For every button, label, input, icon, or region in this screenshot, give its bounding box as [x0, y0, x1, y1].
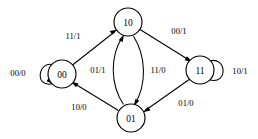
state-node-11-label: 11 [195, 66, 204, 76]
transition-10-to-01 [134, 36, 144, 106]
state-node-01-label: 01 [126, 114, 136, 124]
transition-10-to-01-path [134, 36, 144, 104]
state-node-11[interactable]: 11 [186, 56, 214, 84]
state-diagram-canvas: 10 00 11 01 00/0 11/1 00/1 10/1 01/0 10/… [0, 0, 258, 139]
transition-label-10-to-01: 11/0 [151, 65, 166, 75]
transition-01-to-10-path [113, 37, 123, 105]
state-node-10[interactable]: 10 [114, 8, 142, 36]
state-diagram-svg: 10 00 11 01 00/0 11/1 00/1 10/1 01/0 10/… [0, 0, 258, 139]
transition-label-01-to-00: 10/0 [71, 102, 86, 112]
transition-label-00-to-00: 00/0 [10, 68, 25, 78]
state-node-00[interactable]: 00 [48, 60, 76, 88]
transition-label-11-to-11: 10/1 [232, 66, 247, 76]
transition-label-11-to-01: 01/0 [178, 98, 193, 108]
transition-label-10-to-11: 00/1 [171, 26, 186, 36]
state-node-10-label: 10 [123, 18, 133, 28]
transition-label-01-to-10: 01/1 [90, 65, 105, 75]
transition-label-00-to-10: 11/1 [66, 31, 81, 41]
state-node-01[interactable]: 01 [117, 104, 145, 132]
transition-01-to-10 [113, 35, 124, 105]
state-node-00-label: 00 [57, 70, 67, 80]
